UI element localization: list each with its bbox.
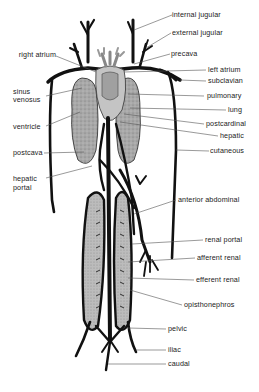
label-hepatic-portal-1: hepatic [13, 175, 37, 183]
label-left-atrium: left atrium [208, 66, 241, 74]
label-internal-jugular: internal jugular [172, 11, 221, 19]
label-postcava: postcava [13, 149, 43, 157]
label-cutaneous: cutaneous [210, 147, 244, 155]
label-ventricle: ventricle [13, 123, 41, 131]
posterior-veins [76, 322, 136, 370]
label-efferent-renal: efferent renal [196, 276, 240, 284]
label-afferent-renal: afferent renal [197, 254, 241, 262]
label-hepatic: hepatic [220, 132, 244, 140]
label-iliac: iliac [168, 346, 181, 354]
venous-system-diagram: right atrium sinus venosus ventricle pos… [0, 0, 259, 392]
label-external-jugular: external jugular [172, 29, 223, 37]
label-pelvic: pelvic [168, 325, 187, 333]
heart [96, 48, 126, 121]
label-sinus-venosus-2: venosus [13, 96, 40, 104]
label-renal-portal: renal portal [205, 236, 242, 244]
label-lung: lung [228, 106, 242, 114]
label-anterior-abdominal: anterior abdominal [178, 196, 239, 204]
label-postcardinal: postcardinal [206, 120, 246, 128]
label-hepatic-portal-2: portal [13, 184, 32, 192]
label-opisthonephros: opisthonephros [184, 301, 235, 309]
label-precava: precava [171, 50, 197, 58]
label-pulmonary: pulmonary [207, 92, 241, 100]
label-right-atrium: right atrium [8, 51, 56, 59]
label-caudal: caudal [168, 360, 190, 368]
label-subclavian: subclavian [208, 77, 243, 85]
